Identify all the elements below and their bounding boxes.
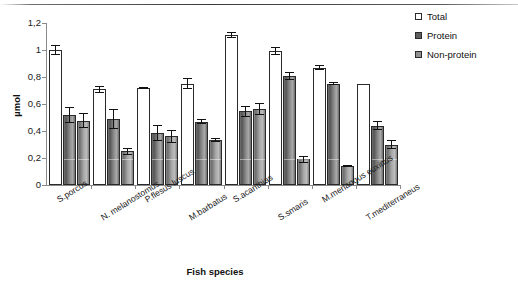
bar-total[interactable] [313, 68, 326, 185]
error-bar-cap-top [197, 119, 206, 120]
x-axis-category-label: T.mediterraneus [364, 181, 422, 222]
bar-shading-line [78, 159, 89, 160]
error-bar-stem [157, 125, 158, 141]
error-bar-cap-top [79, 113, 88, 114]
error-bar-stem [69, 107, 70, 123]
error-bar-cap-top [183, 78, 192, 79]
bar-nonprotein[interactable] [77, 121, 90, 185]
error-bar-cap-bottom [51, 54, 60, 55]
bar-protein[interactable] [63, 115, 76, 185]
y-axis-tick [42, 185, 47, 186]
bar-shading-line [210, 159, 221, 160]
error-bar-cap-bottom [241, 116, 250, 117]
error-bar [271, 47, 280, 55]
y-axis-tick [42, 50, 47, 51]
error-bar-cap-top [315, 65, 324, 66]
x-axis-tick [135, 185, 136, 189]
bar-shading-line [122, 159, 133, 160]
bar-nonprotein[interactable] [121, 151, 134, 185]
error-bar-stem [171, 130, 172, 144]
error-bar-cap-bottom [271, 54, 280, 55]
error-bar [387, 140, 396, 149]
error-bar-cap-top [95, 86, 104, 87]
error-bar-cap-top [299, 156, 308, 157]
error-bar [373, 121, 382, 130]
error-bar-cap-bottom [123, 154, 132, 155]
error-bar [183, 78, 192, 89]
error-bar-stem [83, 113, 84, 128]
error-bar-cap-bottom [139, 88, 148, 89]
x-axis-title: Fish species [0, 266, 430, 277]
y-axis-tick-label: 0,8 [1, 72, 41, 81]
bar-nonprotein[interactable] [297, 159, 310, 185]
error-bar [79, 113, 88, 128]
error-bar [153, 125, 162, 141]
x-axis-tick [179, 185, 180, 189]
legend-label: Non-protein [427, 49, 477, 60]
bar-shading-line [284, 159, 295, 160]
y-axis-tick [42, 158, 47, 159]
bar-group [91, 23, 135, 185]
bar-total[interactable] [137, 88, 150, 185]
x-axis-tick [91, 185, 92, 189]
bar-total[interactable] [225, 35, 238, 185]
bar-nonprotein[interactable] [209, 140, 222, 185]
error-bar-cap-bottom [387, 148, 396, 149]
y-axis-tick-label: 0,4 [1, 126, 41, 135]
error-bar [139, 87, 148, 89]
legend-swatch [415, 32, 422, 39]
error-bar-cap-bottom [227, 37, 236, 38]
error-bar-cap-top [123, 148, 132, 149]
bar-protein[interactable] [327, 84, 340, 185]
error-bar [167, 130, 176, 144]
bar-total[interactable] [93, 89, 106, 185]
error-bar-cap-top [255, 103, 264, 104]
error-bar-cap-bottom [95, 92, 104, 93]
x-axis-category-label: S.smaris [276, 196, 310, 222]
error-bar-cap-top [211, 138, 220, 139]
error-bar-cap-top [167, 130, 176, 131]
legend-item[interactable]: Non-protein [415, 49, 477, 60]
bar-shading-line [328, 159, 339, 160]
bar-group [268, 23, 312, 185]
error-bar-cap-bottom [65, 122, 74, 123]
bar-protein[interactable] [195, 122, 208, 185]
y-axis-tick-label: 1 [1, 45, 41, 54]
error-bar-cap-bottom [255, 114, 264, 115]
bar-shading-line [152, 159, 163, 160]
bar-group [135, 23, 179, 185]
error-bar-cap-bottom [373, 129, 382, 130]
x-axis-tick [356, 185, 357, 189]
error-bar [241, 106, 250, 117]
bar-shading-line [196, 159, 207, 160]
bar-group [179, 23, 223, 185]
bar-protein[interactable] [371, 126, 384, 185]
y-axis-tick [42, 104, 47, 105]
error-bar [51, 45, 60, 54]
bar-protein[interactable] [283, 76, 296, 185]
chart-legend: TotalProteinNon-protein [415, 11, 477, 68]
bar-total[interactable] [49, 50, 62, 185]
bar-total[interactable] [269, 51, 282, 185]
bar-shading-line [64, 159, 75, 160]
legend-swatch [415, 51, 422, 58]
bar-protein[interactable] [239, 111, 252, 185]
y-axis-tick-labels: 1,210,80,60,40,20 [0, 0, 41, 299]
y-axis-tick [42, 131, 47, 132]
legend-item[interactable]: Protein [415, 30, 477, 41]
plot-area [47, 23, 400, 185]
error-bar-cap-bottom [299, 162, 308, 163]
bar-shading-line [166, 159, 177, 160]
x-axis-tick [224, 185, 225, 189]
bar-nonprotein[interactable] [253, 109, 266, 185]
error-bar [65, 107, 74, 123]
bar-group [47, 23, 91, 185]
legend-item[interactable]: Total [415, 11, 477, 22]
error-bar [255, 103, 264, 115]
y-axis-tick-label: 0,6 [1, 99, 41, 108]
error-bar-cap-top [65, 107, 74, 108]
error-bar [227, 32, 236, 37]
error-bar-cap-top [373, 121, 382, 122]
y-axis-tick-label: 0 [1, 180, 41, 189]
bar-shading-line [108, 159, 119, 160]
